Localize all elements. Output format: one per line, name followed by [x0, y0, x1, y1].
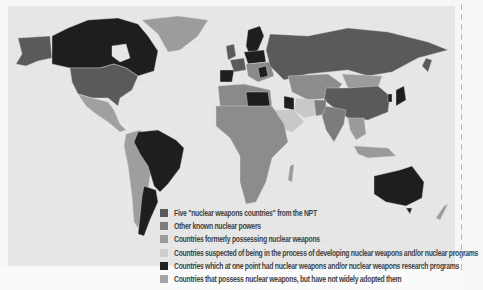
legend-label: Countries which at one point had nuclear… — [174, 261, 459, 271]
legend-swatch — [160, 275, 168, 283]
legend-label: Countries suspected of being in the proc… — [174, 248, 478, 258]
region-korea — [388, 94, 392, 102]
region-balkans — [258, 66, 268, 78]
region-libya — [246, 92, 270, 108]
legend-label: Other known nuclear powers — [174, 221, 261, 231]
region-russia — [266, 28, 448, 80]
legend-label: Five "nuclear weapons countries" from th… — [174, 208, 317, 218]
legend-swatch — [160, 222, 168, 230]
region-se-asia — [348, 118, 366, 140]
legend-item-npt-five: Five "nuclear weapons countries" from th… — [160, 206, 483, 219]
legend-label: Countries formerly possessing nuclear we… — [174, 234, 320, 244]
region-india — [322, 106, 346, 142]
legend-swatch — [160, 249, 168, 257]
legend-swatch — [160, 209, 168, 217]
legend-item-formerly: Countries formerly possessing nuclear we… — [160, 233, 483, 246]
map-legend: Five "nuclear weapons countries" from th… — [160, 206, 483, 286]
region-madagascar — [288, 164, 294, 182]
region-mongolia — [342, 74, 382, 88]
region-japan — [396, 86, 406, 106]
legend-swatch — [160, 262, 168, 270]
scrollbar[interactable] — [459, 0, 463, 290]
region-indonesia — [354, 146, 396, 158]
region-australia — [374, 166, 424, 206]
region-africa — [216, 106, 288, 204]
region-uk — [226, 44, 236, 60]
legend-item-research: Countries which at one point had nuclear… — [160, 259, 483, 272]
legend-label: Countries that possess nuclear weapons, … — [174, 274, 401, 284]
legend-swatch — [160, 235, 168, 243]
legend-item-not-adopted: Countries that possess nuclear weapons, … — [160, 272, 483, 285]
region-spain — [220, 70, 234, 82]
region-kamchatka — [422, 58, 432, 72]
legend-item-suspected: Countries suspected of being in the proc… — [160, 246, 483, 259]
region-alaska — [16, 36, 52, 66]
region-germany-area — [244, 50, 266, 64]
region-iraq — [284, 96, 294, 110]
legend-item-other-known: Other known nuclear powers — [160, 219, 483, 232]
